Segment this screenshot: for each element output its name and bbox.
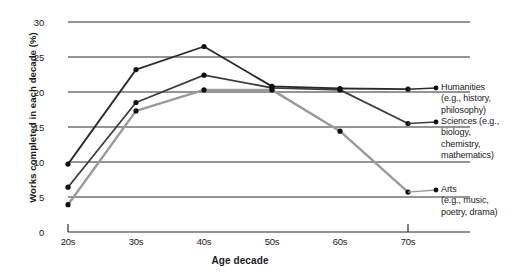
data-point-humanities-40s xyxy=(201,44,206,49)
data-point-arts-20s xyxy=(65,202,70,207)
data-point-arts-50s xyxy=(269,87,274,92)
legend-sub-arts-1: (e.g., music, xyxy=(441,195,497,206)
legend-connector-humanities xyxy=(408,88,436,89)
data-point-arts-30s xyxy=(133,108,138,113)
axis-lines xyxy=(68,224,470,232)
line-chart: Works completed in each decade (%) 30 25… xyxy=(0,0,527,278)
legend-item-sciences[interactable]: Sciences (e.g., biology, chemistry, math… xyxy=(441,116,499,162)
data-point-humanities-30s xyxy=(133,67,138,72)
data-point-sciences-60s xyxy=(337,87,342,92)
data-point-sciences-20s xyxy=(65,185,70,190)
legend-connector-sciences xyxy=(408,122,436,124)
legend-connector-lines xyxy=(408,86,438,193)
gridlines xyxy=(68,22,470,197)
legend-item-humanities[interactable]: Humanities (e.g., history, philosophy) xyxy=(441,82,491,116)
data-point-sciences-40s xyxy=(201,73,206,78)
series-line-arts xyxy=(68,90,408,205)
legend-connector-arts xyxy=(408,190,436,192)
legend-sub-sciences-3: mathematics) xyxy=(441,150,499,161)
legend-sub-humanities-1: (e.g., history, xyxy=(441,93,491,104)
legend-sub-sciences-2: chemistry, xyxy=(441,139,499,150)
legend-sub-arts-2: poetry, drama) xyxy=(441,207,497,218)
legend-sub-sciences-1: biology, xyxy=(441,127,499,138)
legend-marker-sciences xyxy=(434,120,439,125)
data-point-humanities-20s xyxy=(65,162,70,167)
legend-sub-humanities-2: philosophy) xyxy=(441,105,491,116)
legend-item-arts[interactable]: Arts (e.g., music, poetry, drama) xyxy=(441,184,497,218)
legend-marker-arts xyxy=(434,188,439,193)
legend-label-humanities: Humanities xyxy=(441,82,491,93)
legend-label-arts: Arts xyxy=(441,184,497,195)
legend-label-sciences: Sciences (e.g., xyxy=(441,116,499,127)
data-point-arts-40s xyxy=(201,87,206,92)
series-lines xyxy=(68,47,408,205)
data-point-arts-60s xyxy=(337,129,342,134)
data-point-sciences-30s xyxy=(133,100,138,105)
legend-marker-humanities xyxy=(434,86,439,91)
